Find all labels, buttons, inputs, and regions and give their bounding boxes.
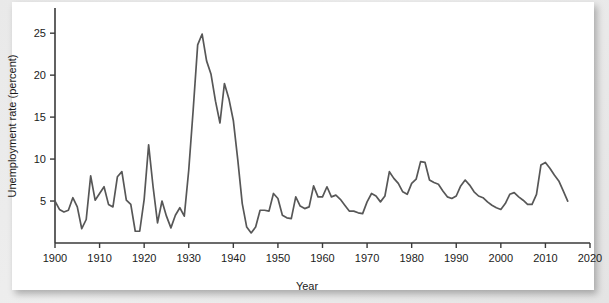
x-tick-label-2020: 2020	[578, 252, 602, 264]
y-tick-label-10: 10	[34, 153, 46, 165]
y-axis: 510152025	[34, 8, 55, 243]
series-line-unemployment-rate	[55, 34, 568, 233]
y-tick-label-20: 20	[34, 69, 46, 81]
figure-container: 510152025 190019101920193019401950196019…	[0, 0, 609, 303]
x-tick-label-1920: 1920	[132, 252, 156, 264]
x-tick-label-1980: 1980	[399, 252, 423, 264]
x-tick-label-1910: 1910	[87, 252, 111, 264]
x-tick-label-2000: 2000	[489, 252, 513, 264]
x-tick-label-1960: 1960	[310, 252, 334, 264]
x-tick-label-1930: 1930	[177, 252, 201, 264]
x-tick-label-1970: 1970	[355, 252, 379, 264]
y-tick-label-5: 5	[40, 195, 46, 207]
x-tick-label-1900: 1900	[43, 252, 67, 264]
x-tick-label-2010: 2010	[533, 252, 557, 264]
y-tick-label-25: 25	[34, 27, 46, 39]
y-axis-title: Unemployment rate (percent)	[6, 54, 18, 197]
x-tick-label-1990: 1990	[444, 252, 468, 264]
y-tick-label-15: 15	[34, 111, 46, 123]
unemployment-line-chart: 510152025 190019101920193019401950196019…	[0, 0, 609, 303]
x-axis-title: Year	[296, 280, 319, 292]
x-tick-label-1940: 1940	[221, 252, 245, 264]
x-axis: 1900191019201930194019501960197019801990…	[43, 243, 602, 264]
x-tick-label-1950: 1950	[266, 252, 290, 264]
